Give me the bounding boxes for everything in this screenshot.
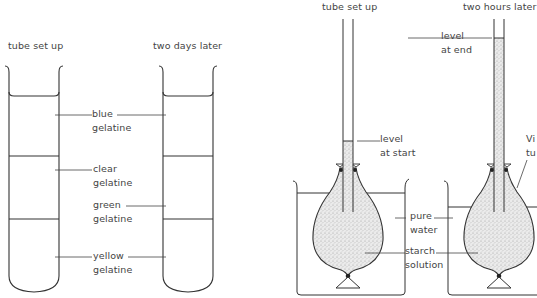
caption-two-days-later: two days later bbox=[153, 39, 222, 53]
label-level-at-start: level at start bbox=[380, 132, 416, 160]
label-pure-water-line1: pure bbox=[410, 209, 438, 223]
caption-tube-set-up-right: tube set up bbox=[322, 0, 377, 14]
label-blue-gelatine: blue gelatine bbox=[92, 107, 131, 135]
label-level-at-end: level at end bbox=[441, 29, 472, 57]
test-tube-two-days bbox=[159, 66, 217, 292]
label-blue-line2: gelatine bbox=[92, 121, 131, 135]
label-green-line2: gelatine bbox=[93, 212, 132, 226]
label-starch-line2: solution bbox=[405, 258, 443, 272]
label-yellow-line2: gelatine bbox=[93, 263, 132, 277]
caption-tube-set-up-left: tube set up bbox=[8, 39, 63, 53]
label-blue-line1: blue bbox=[92, 107, 131, 121]
label-visking-line2: tu bbox=[526, 146, 536, 160]
label-level-start-line1: level bbox=[380, 132, 416, 146]
label-visking-tubing-partial: Vi tu bbox=[526, 132, 536, 160]
label-level-end-line2: at end bbox=[441, 43, 472, 57]
label-green-line1: green bbox=[93, 198, 132, 212]
label-pure-water-line2: water bbox=[410, 223, 438, 237]
label-level-start-line2: at start bbox=[380, 146, 416, 160]
label-green-gelatine: green gelatine bbox=[93, 198, 132, 226]
caption-two-hours-later: two hours later bbox=[463, 0, 537, 14]
label-pure-water: pure water bbox=[410, 209, 438, 237]
label-yellow-line1: yellow bbox=[93, 249, 132, 263]
label-clear-line1: clear bbox=[93, 162, 132, 176]
osmometer-two-hours bbox=[444, 19, 537, 295]
label-starch-solution: starch solution bbox=[405, 244, 443, 272]
test-tube-setup bbox=[5, 66, 63, 292]
label-clear-line2: gelatine bbox=[93, 176, 132, 190]
label-yellow-gelatine: yellow gelatine bbox=[93, 249, 132, 277]
label-visking-line1: Vi bbox=[526, 132, 536, 146]
label-starch-line1: starch bbox=[405, 244, 443, 258]
label-level-end-line1: level bbox=[441, 29, 472, 43]
label-clear-gelatine: clear gelatine bbox=[93, 162, 132, 190]
